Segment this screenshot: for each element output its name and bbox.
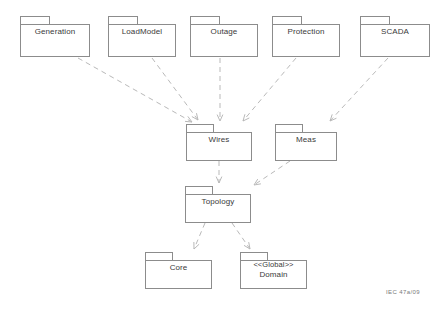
package-domain[interactable]: <<Global>>Domain: [240, 252, 307, 289]
package-label: Outage: [190, 27, 258, 37]
package-label: Core: [145, 263, 212, 273]
package-scada[interactable]: SCADA: [360, 16, 430, 57]
package-wires[interactable]: Wires: [186, 124, 252, 161]
package-name: Domain: [240, 270, 307, 280]
package-name: Protection: [272, 27, 340, 37]
dependency-line: [243, 58, 296, 121]
package-meas[interactable]: Meas: [275, 124, 337, 161]
dependency-topology-to-domain: [232, 223, 250, 249]
dependency-line: [254, 161, 290, 185]
package-label: Topology: [185, 197, 251, 207]
package-label: SCADA: [360, 27, 430, 37]
package-label: Protection: [272, 27, 340, 37]
dependency-topology-to-core: [194, 223, 205, 249]
dependency-line: [194, 223, 205, 249]
package-name: LoadModel: [108, 27, 176, 37]
package-name: SCADA: [360, 27, 430, 37]
package-name: Wires: [186, 135, 252, 145]
dependency-meas-to-topology: [254, 161, 290, 185]
package-topology[interactable]: Topology: [185, 186, 251, 223]
package-name: Core: [145, 263, 212, 273]
dependency-arrowhead-icon: [192, 113, 198, 120]
dependency-arrowhead-icon: [194, 242, 199, 249]
package-name: Outage: [190, 27, 258, 37]
dependency-arrowhead-icon: [216, 177, 222, 183]
dependency-arrowhead-icon: [330, 114, 336, 121]
package-protection[interactable]: Protection: [272, 16, 340, 57]
dependency-protection-to-wires: [243, 58, 296, 121]
dependency-line: [330, 58, 388, 121]
dependency-scada-to-meas: [330, 58, 388, 121]
dependency-generation-to-wires: [78, 58, 192, 122]
dependency-line: [152, 58, 198, 120]
package-stereotype: <<Global>>: [240, 260, 307, 270]
package-diagram-canvas: GenerationLoadModelOutageProtectionSCADA…: [0, 0, 448, 311]
dependency-arrowhead-icon: [185, 116, 192, 122]
package-label: <<Global>>Domain: [240, 260, 307, 280]
dependency-loadmodel-to-wires: [152, 58, 198, 120]
package-label: Wires: [186, 135, 252, 145]
figure-caption: IEC 47а/09: [386, 289, 420, 295]
package-generation[interactable]: Generation: [20, 16, 90, 57]
package-name: Topology: [185, 197, 251, 207]
package-name: Meas: [275, 135, 337, 145]
package-name: Generation: [20, 27, 90, 37]
package-label: Meas: [275, 135, 337, 145]
dependency-arrowhead-icon: [217, 115, 223, 121]
dependency-line: [232, 223, 250, 249]
package-label: LoadModel: [108, 27, 176, 37]
dependency-outage-to-wires: [217, 58, 223, 121]
dependency-arrowhead-icon: [244, 242, 250, 249]
package-label: Generation: [20, 27, 90, 37]
dependency-arrowhead-icon: [243, 114, 249, 121]
dependency-line: [78, 58, 192, 122]
dependency-arrowhead-icon: [254, 179, 261, 185]
package-outage[interactable]: Outage: [190, 16, 258, 57]
package-core[interactable]: Core: [145, 252, 212, 289]
dependency-wires-to-topology: [216, 161, 222, 183]
package-loadmodel[interactable]: LoadModel: [108, 16, 176, 57]
